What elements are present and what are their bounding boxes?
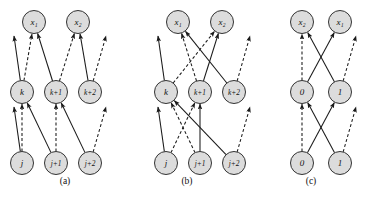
solid-edge-arrow <box>158 36 164 81</box>
node-label: 1 <box>338 158 343 168</box>
solid-edge-arrow <box>186 31 227 83</box>
node-label: 1 <box>338 87 343 97</box>
graph-node[interactable]: k <box>155 81 178 104</box>
node-label: j+1 <box>50 159 62 168</box>
node-label: x₁ <box>335 17 343 27</box>
graph-node[interactable]: j+2 <box>79 152 102 175</box>
dashed-edge-arrow <box>59 33 74 81</box>
node-label: x₂ <box>73 17 81 27</box>
dashed-edge-arrow <box>237 107 250 152</box>
node-label: k+2 <box>228 88 240 97</box>
solid-edge-arrow <box>61 103 85 153</box>
node-label: k+1 <box>194 88 206 97</box>
graph-node[interactable]: 1 <box>329 81 352 104</box>
figure-container: x₁x₂kk+1k+2jj+1j+2x₁x₂kk+1k+2jj+1j+2x₂x₁… <box>0 0 366 203</box>
dashed-edge-arrow <box>93 36 106 81</box>
graph-node[interactable]: k+1 <box>189 81 212 104</box>
graph-node[interactable]: 1 <box>329 152 352 175</box>
graph-node[interactable]: x₂ <box>211 11 234 34</box>
graph-node[interactable]: j+2 <box>223 152 246 175</box>
node-label: j+2 <box>228 159 240 168</box>
graph-node[interactable]: x₁ <box>167 11 190 34</box>
captions-layer: (a)(b)(c) <box>60 176 317 187</box>
node-label: x₂ <box>297 17 305 27</box>
graph-node[interactable]: x₁ <box>23 11 46 34</box>
node-label: j <box>20 158 24 168</box>
node-label: j+2 <box>84 159 96 168</box>
solid-edge-arrow <box>38 33 53 81</box>
node-label: j+1 <box>194 159 206 168</box>
graph-node[interactable]: j <box>155 152 178 175</box>
graph-node[interactable]: 0 <box>291 81 314 104</box>
panel-caption: (c) <box>306 176 317 187</box>
solid-edge-arrow <box>158 107 164 152</box>
dashed-edge-arrow <box>237 36 250 81</box>
nodes-layer: x₁x₂kk+1k+2jj+1j+2x₁x₂kk+1k+2jj+1j+2x₂x₁… <box>11 11 352 175</box>
node-label: k+2 <box>84 88 96 97</box>
graph-node[interactable]: k+2 <box>223 81 246 104</box>
graph-node[interactable]: j+1 <box>189 152 212 175</box>
graph-node[interactable]: k+1 <box>45 81 68 104</box>
graph-node[interactable]: 0 <box>291 152 314 175</box>
dashed-edge-arrow <box>173 31 214 83</box>
node-label: j <box>164 158 168 168</box>
graph-node[interactable]: j <box>11 152 34 175</box>
solid-edge-arrow <box>27 103 51 153</box>
graph-node[interactable]: k+2 <box>79 81 102 104</box>
node-label: 0 <box>300 87 305 97</box>
solid-edge-arrow <box>80 34 88 81</box>
panel-caption: (a) <box>60 176 71 187</box>
graph-node[interactable]: x₂ <box>291 11 314 34</box>
node-label: x₁ <box>29 17 37 27</box>
dashed-edge-arrow <box>24 34 32 81</box>
solid-edge-arrow <box>14 107 20 152</box>
node-label: x₂ <box>217 17 225 27</box>
diagram-canvas: x₁x₂kk+1k+2jj+1j+2x₁x₂kk+1k+2jj+1j+2x₂x₁… <box>0 0 366 203</box>
solid-edge-arrow <box>14 36 20 81</box>
node-label: x₁ <box>173 17 181 27</box>
graph-node[interactable]: j+1 <box>45 152 68 175</box>
panel-caption: (b) <box>181 176 192 187</box>
dashed-edge-arrow <box>343 107 356 152</box>
graph-node[interactable]: x₂ <box>67 11 90 34</box>
dashed-edge-arrow <box>343 36 356 81</box>
graph-node[interactable]: k <box>11 81 34 104</box>
dashed-edge-arrow <box>93 107 106 152</box>
node-label: k+1 <box>50 88 62 97</box>
node-label: 0 <box>300 158 305 168</box>
graph-node[interactable]: x₁ <box>329 11 352 34</box>
